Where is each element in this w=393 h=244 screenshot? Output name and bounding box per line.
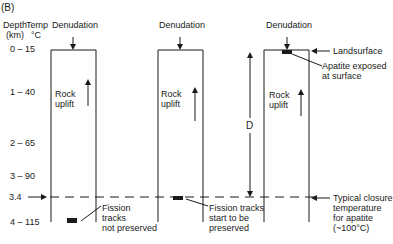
- closure-label-4: (~100°C): [333, 223, 369, 234]
- note-3-line-2: at surface: [322, 71, 362, 82]
- uplift-label-2: uplift: [161, 99, 180, 110]
- leader-line-1: [81, 206, 101, 221]
- denudation-label-2: Denudation: [159, 20, 205, 31]
- uplift-label-1: uplift: [55, 99, 74, 110]
- apatite-block-1: [67, 218, 77, 223]
- denudation-label-3: Denudation: [266, 20, 312, 31]
- distance-label: D: [246, 120, 253, 131]
- uplift-label-3: uplift: [269, 100, 288, 111]
- landsurface-label: Landsurface: [333, 46, 383, 57]
- leader-line-2: [186, 199, 208, 206]
- leader-line-3: [292, 54, 322, 66]
- column-1-box: [51, 50, 96, 222]
- apatite-block-3: [282, 50, 292, 54]
- column-3-box: [264, 50, 309, 222]
- apatite-block-2: [173, 196, 183, 200]
- note-2-line-3: preserved: [209, 223, 249, 234]
- note-1-line-3: not preserved: [102, 223, 157, 234]
- denudation-label-1: Denudation: [52, 20, 98, 31]
